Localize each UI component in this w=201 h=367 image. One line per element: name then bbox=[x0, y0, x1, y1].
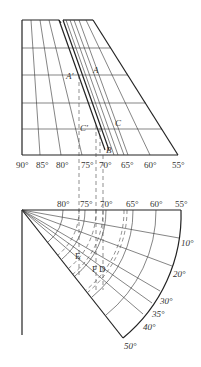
angle-label: 50° bbox=[124, 341, 137, 351]
upper-longitude-label: 90° bbox=[16, 160, 29, 170]
angle-label: 30° bbox=[159, 296, 173, 306]
upper-trapezoid bbox=[22, 20, 178, 290]
upper-longitude-label: 75° bbox=[81, 160, 94, 170]
upper-longitude-label: 55° bbox=[172, 160, 185, 170]
angle-label: 35° bbox=[151, 309, 165, 319]
upper-longitude-label: 65° bbox=[121, 160, 134, 170]
angle-label: 40° bbox=[143, 322, 156, 332]
point-label-e: E bbox=[75, 251, 81, 261]
lower-longitude-label: 70° bbox=[100, 199, 113, 209]
lower-longitude-label: 80° bbox=[57, 199, 70, 209]
projection-diagram: A′ A C′ C B 90° 85° 80° 75° 70° 65° 60° … bbox=[0, 0, 201, 367]
point-label-a: A bbox=[92, 65, 99, 75]
point-label-c-prime: C′ bbox=[80, 123, 89, 133]
angle-label: 10° bbox=[181, 238, 194, 248]
point-label-a-prime: A′ bbox=[65, 71, 74, 81]
lower-longitude-label: 65° bbox=[126, 199, 139, 209]
upper-longitude-label: 85° bbox=[36, 160, 49, 170]
point-label-b: B bbox=[106, 145, 112, 155]
upper-longitude-label: 70° bbox=[99, 160, 112, 170]
angle-label: 20° bbox=[173, 269, 186, 279]
lower-longitude-label: 60° bbox=[150, 199, 163, 209]
point-label-f: F bbox=[92, 264, 97, 274]
upper-longitude-label: 80° bbox=[56, 160, 69, 170]
point-label-c: C bbox=[115, 118, 122, 128]
lower-longitude-label: 55° bbox=[175, 199, 188, 209]
point-label-d: D bbox=[99, 264, 106, 274]
upper-longitude-label: 60° bbox=[144, 160, 157, 170]
lower-longitude-label: 75° bbox=[80, 199, 93, 209]
